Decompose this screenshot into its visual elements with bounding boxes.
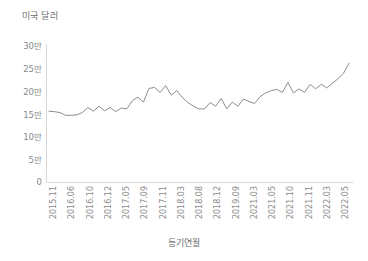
x-tick-label: 2021.11 <box>305 186 314 219</box>
x-tick-label: 2017.11 <box>159 186 168 219</box>
y-tick-label: 10만 <box>2 130 42 142</box>
x-tick-label: 2017.05 <box>122 186 131 219</box>
x-tick-label: 2015.11 <box>49 186 58 219</box>
line-chart: 미국 달러 30만25만20만15만10만5만0 2015.112016.062… <box>0 0 368 261</box>
x-tick-label: 2016.10 <box>86 186 95 219</box>
y-tick-label: 25만 <box>2 62 42 74</box>
x-tick-label: 2018.03 <box>177 186 186 219</box>
x-tick-label: 2021.03 <box>250 186 259 219</box>
x-tick-label: 2018.12 <box>213 186 222 219</box>
series-polyline <box>49 63 349 115</box>
x-tick-label: 2022.03 <box>323 186 332 219</box>
y-tick-label: 0 <box>2 177 42 187</box>
plot-area <box>46 45 352 182</box>
x-tick-label: 2016.06 <box>67 186 76 219</box>
x-tick-label: 2017.09 <box>140 186 149 219</box>
x-axis-tick-labels: 2015.112016.062016.102016.122017.052017.… <box>46 182 353 242</box>
y-tick-label: 30만 <box>2 39 42 51</box>
y-tick-label: 15만 <box>2 108 42 120</box>
y-tick-label: 20만 <box>2 85 42 97</box>
x-tick-label: 2021.05 <box>268 186 277 219</box>
y-axis-tick-labels: 30만25만20만15만10만5만0 <box>0 0 42 261</box>
x-tick-label: 2016.12 <box>104 186 113 219</box>
x-tick-label: 2018.08 <box>195 186 204 219</box>
x-tick-label: 2022.05 <box>341 186 350 219</box>
x-axis-title: 등기연월 <box>0 236 368 249</box>
y-tick-label: 5만 <box>2 153 42 165</box>
data-series-line <box>46 45 352 182</box>
x-tick-label: 2019.09 <box>232 186 241 219</box>
x-tick-label: 2021.10 <box>286 186 295 219</box>
